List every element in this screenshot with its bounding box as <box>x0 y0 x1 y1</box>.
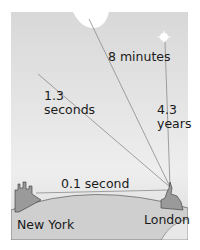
star-time-value: 4.3 <box>157 103 177 117</box>
new-york-label: New York <box>17 218 74 232</box>
diagram-panel: 8 minutes 1.3 seconds 4.3 years 0.1 seco… <box>11 12 188 240</box>
sun-icon <box>73 12 109 28</box>
london-skyline-icon <box>161 182 183 210</box>
star-icon <box>157 30 171 44</box>
moon-time-value: 1.3 <box>44 89 64 103</box>
star-time-unit: years <box>157 117 191 131</box>
moon-icon <box>32 58 47 74</box>
ground-time-label: 0.1 second <box>61 177 129 191</box>
london-label: London <box>144 213 190 227</box>
sun-time-label: 8 minutes <box>108 50 171 64</box>
moon-time-unit: seconds <box>44 103 95 117</box>
